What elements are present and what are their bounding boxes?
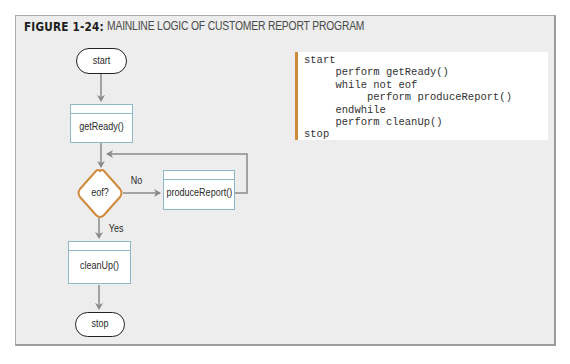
getready-label: getReady() <box>73 121 130 132</box>
code-line: start <box>304 54 548 66</box>
code-line: perform cleanUp() <box>304 116 548 128</box>
stop-label: stop <box>78 318 123 329</box>
code-line: endwhile <box>304 104 548 116</box>
code-line: stop <box>304 128 548 140</box>
code-line: while not eof <box>304 79 548 91</box>
code-line: perform getReady() <box>304 66 548 78</box>
process-header-strip <box>69 242 130 251</box>
start-label: start <box>79 55 125 66</box>
yes-branch-label: Yes <box>109 223 124 234</box>
pseudocode-box: start perform getReady() while not eof p… <box>295 52 548 140</box>
cleanup-label: cleanUp() <box>71 260 128 271</box>
process-header-strip <box>71 105 132 114</box>
code-line: perform produceReport() <box>304 91 548 103</box>
decision-label: eof? <box>82 187 118 198</box>
no-branch-label: No <box>131 175 143 186</box>
producereport-label: produceReport() <box>167 187 232 198</box>
process-header-strip <box>164 171 234 180</box>
